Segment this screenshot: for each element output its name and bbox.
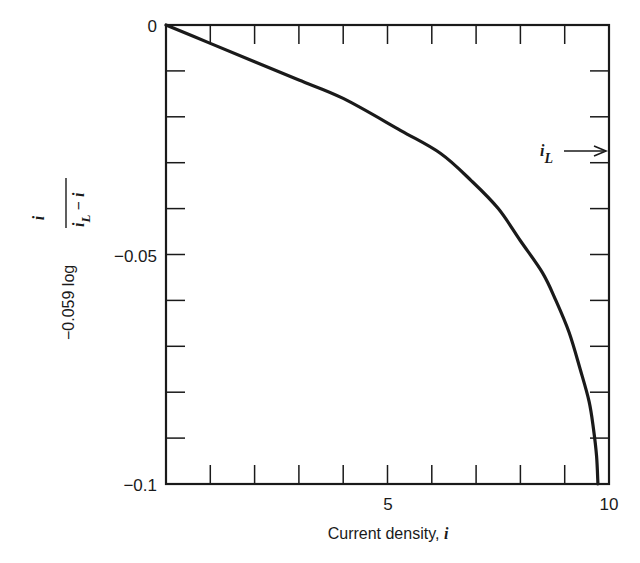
x-tick-label-10: 10 — [600, 495, 619, 514]
axis-ticks — [166, 25, 609, 484]
plot-frame — [166, 25, 609, 484]
y-axis-title-prefix: −0.059 log — [60, 265, 77, 340]
y-axis-title-numerator: i — [30, 215, 47, 220]
y-tick-label-mid: −0.05 — [114, 247, 157, 266]
y-axis-title: −0.059 log i iL − i — [30, 178, 93, 340]
y-axis-title-denominator: iL − i — [70, 192, 93, 227]
x-axis-title: Current density, i — [328, 525, 449, 542]
il-label: iL — [540, 142, 553, 166]
y-tick-label-0: 0 — [148, 17, 157, 36]
y-tick-label-bottom: −0.1 — [123, 476, 157, 495]
x-tick-label-5: 5 — [383, 495, 392, 514]
data-curve — [166, 25, 598, 484]
chart: 0 −0.05 −0.1 5 10 Current density, i −0.… — [0, 0, 640, 563]
